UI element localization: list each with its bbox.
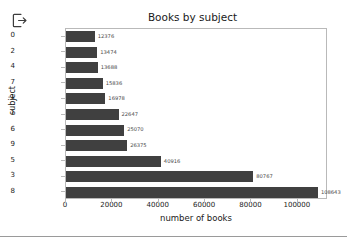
x-tick-mark: [65, 199, 66, 203]
x-tick-mark: [111, 199, 112, 203]
y-tick-label: 4: [0, 63, 15, 70]
y-tick-mark: [61, 51, 65, 52]
y-tick-mark: [61, 191, 65, 192]
x-tick-mark: [297, 199, 298, 203]
x-tick-mark: [204, 199, 205, 203]
y-tick-label: 7: [0, 79, 15, 86]
y-tick-mark: [61, 36, 65, 37]
bar: [66, 109, 119, 120]
bar: [66, 125, 124, 136]
bar-value-label: 15836: [106, 81, 123, 86]
bar-row: 26375: [66, 140, 147, 151]
bar-row: 15836: [66, 78, 122, 89]
y-tick-label: 9: [0, 141, 15, 148]
y-tick-mark: [61, 160, 65, 161]
bar-row: 80767: [66, 171, 273, 182]
x-tick-mark: [250, 199, 251, 203]
bar-value-label: 22647: [122, 112, 139, 117]
x-tick-label: 100000: [267, 202, 327, 209]
y-tick-label: 1: [0, 110, 15, 117]
chart-title: Books by subject: [55, 11, 330, 23]
bar-row: 108643: [66, 187, 341, 198]
bar: [66, 78, 103, 89]
bar-value-label: 13474: [100, 50, 117, 55]
bar: [66, 31, 95, 42]
bar-value-label: 13688: [101, 65, 118, 70]
bar-row: 13474: [66, 47, 117, 58]
x-axis-label: number of books: [65, 213, 327, 223]
y-tick-label: 8: [0, 188, 15, 195]
x-tick-mark: [158, 199, 159, 203]
bar: [66, 156, 161, 167]
y-tick-label: 3: [0, 172, 15, 179]
y-tick-mark: [61, 67, 65, 68]
bar-value-label: 40916: [164, 159, 181, 164]
y-tick-label: 6: [0, 126, 15, 133]
y-tick-label: 5: [0, 157, 15, 164]
bar-row: 13688: [66, 62, 117, 73]
y-tick-mark: [61, 82, 65, 83]
bar-value-label: 12376: [98, 34, 115, 39]
y-tick-label: -1: [0, 94, 15, 101]
bar-row: 16978: [66, 93, 125, 104]
bar-value-label: 80767: [256, 174, 273, 179]
y-tick-label: 2: [0, 48, 15, 55]
y-tick-mark: [61, 114, 65, 115]
y-tick-label: 0: [0, 32, 15, 39]
y-tick-mark: [61, 176, 65, 177]
bars-layer: 1237613474136881583616978226472507026375…: [66, 29, 326, 198]
bar-value-label: 108643: [321, 190, 341, 195]
bar-row: 22647: [66, 109, 138, 120]
plot-area: 1237613474136881583616978226472507026375…: [65, 28, 327, 199]
bar-value-label: 25070: [127, 127, 144, 132]
bar: [66, 62, 98, 73]
bar-row: 12376: [66, 31, 114, 42]
bar: [66, 47, 97, 58]
window-footer: [0, 237, 347, 242]
bar: [66, 171, 253, 182]
bar: [66, 93, 105, 104]
bar-value-label: 26375: [130, 143, 147, 148]
bar: [66, 187, 318, 198]
bar-row: 40916: [66, 156, 180, 167]
y-tick-mark: [61, 129, 65, 130]
bar: [66, 140, 127, 151]
chart-figure: Books by subject subject 123761347413688…: [0, 0, 347, 236]
y-tick-mark: [61, 145, 65, 146]
bar-row: 25070: [66, 125, 144, 136]
bar-value-label: 16978: [108, 96, 125, 101]
y-tick-mark: [61, 98, 65, 99]
